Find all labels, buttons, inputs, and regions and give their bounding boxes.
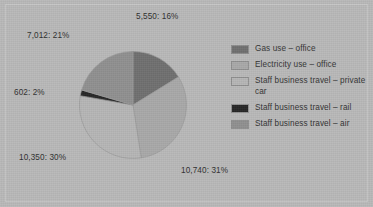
legend-color-swatch [231,104,249,113]
legend-color-swatch [231,77,249,86]
pie-slice-label-staff-business-travel-air: 7,012: 21% [27,31,69,40]
pie-slice-label-gas-use-office: 5,550: 16% [136,12,178,21]
legend-item[interactable]: Electricity use – office [231,60,369,71]
pie-slice-label-electricity-use-office: 10,740: 31% [181,166,228,175]
legend-color-swatch [231,45,249,54]
pie-chart [79,51,187,159]
legend-item-label: Staff business travel – air [255,119,349,130]
chart-page: 5,550: 16% 7,012: 21% 602: 2% 10,350: 30… [0,0,373,207]
legend-item[interactable]: Gas use – office [231,44,369,55]
legend-item-label: Electricity use – office [255,60,336,71]
legend-item[interactable]: Staff business travel – private car [231,76,369,97]
legend-item[interactable]: Staff business travel – air [231,119,369,130]
legend-item[interactable]: Staff business travel – rail [231,103,369,114]
legend-color-swatch [231,61,249,70]
legend-item-label: Staff business travel – rail [255,103,351,114]
pie-slice-label-staff-business-travel-rail: 602: 2% [14,88,45,97]
legend-item-label: Gas use – office [255,44,316,55]
chart-legend: Gas use – officeElectricity use – office… [231,44,369,135]
legend-color-swatch [231,120,249,129]
pie-slice-label-staff-business-travel-private-car: 10,350: 30% [19,153,66,162]
pie-chart-svg [79,51,187,159]
legend-item-label: Staff business travel – private car [255,76,369,97]
